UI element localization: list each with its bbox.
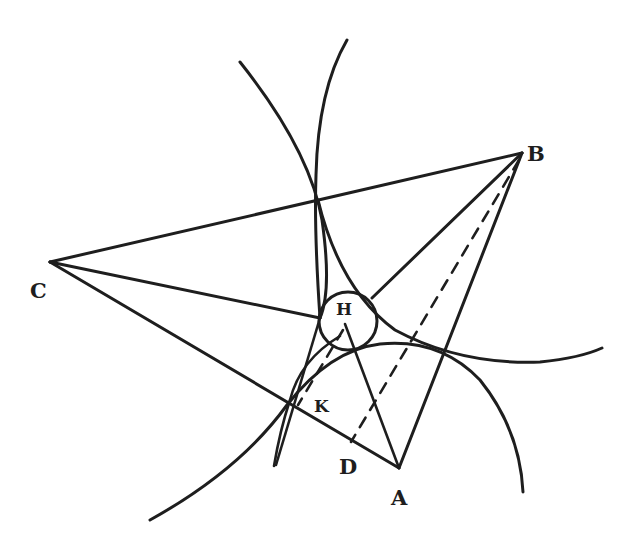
label-H: H <box>336 299 352 319</box>
line-C-to-circle <box>50 262 320 318</box>
label-B: B <box>527 141 545 166</box>
side-BA <box>399 153 522 468</box>
label-D: D <box>339 454 357 479</box>
line-B-to-circle <box>372 153 522 298</box>
geometry-diagram: B C A D H K <box>0 0 632 547</box>
arc-right-horizontal <box>318 200 602 362</box>
side-CB <box>50 153 522 262</box>
label-K: K <box>314 396 330 416</box>
arc-upper-right <box>316 40 348 318</box>
arc-left-upper <box>240 62 327 318</box>
label-A: A <box>390 485 408 510</box>
label-C: C <box>30 278 47 303</box>
